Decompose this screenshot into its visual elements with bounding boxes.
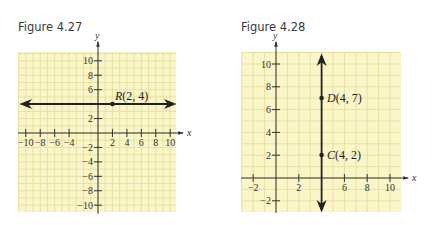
point-r-label: R(2, 4) <box>114 89 148 103</box>
x-tick-label: −8 <box>35 137 46 148</box>
x-axis-label: x <box>186 127 192 138</box>
y-tick-label: −6 <box>82 171 93 182</box>
grid-background <box>18 52 176 212</box>
x-axis-label: x <box>411 172 417 183</box>
x-tick-label: −2 <box>248 182 259 193</box>
y-tick-label: 6 <box>266 104 271 115</box>
point-d-label: D(4, 7) <box>326 91 362 105</box>
y-tick-label: 4 <box>266 127 271 138</box>
y-tick-label: 8 <box>266 81 271 92</box>
y-tick-label: −2 <box>260 195 271 206</box>
x-tick-label: 2 <box>296 182 301 193</box>
point-c <box>319 153 324 158</box>
y-axis-label: y <box>272 30 278 41</box>
point-d <box>319 96 324 101</box>
x-tick-label: 8 <box>153 137 158 148</box>
y-tick-label: −2 <box>82 142 93 153</box>
figure-4-28: x y −226810108642−2 D(4, 7) C(4, 2) <box>241 30 417 213</box>
y-tick-label: −10 <box>77 200 93 211</box>
y-tick-label: −4 <box>82 156 93 167</box>
x-tick-label: 8 <box>365 182 370 193</box>
x-tick-label: −10 <box>18 137 34 148</box>
y-tick-label: 8 <box>88 70 93 81</box>
x-tick-label: 4 <box>124 137 129 148</box>
x-tick-label: −4 <box>64 137 75 148</box>
x-tick-label: 10 <box>165 137 175 148</box>
x-tick-label: −6 <box>49 137 60 148</box>
x-tick-label: 2 <box>110 137 115 148</box>
figure-4-27: x y −10−8−6−424681010862−2−4−6−8−10 R(2,… <box>18 30 192 214</box>
y-tick-label: 10 <box>261 59 271 70</box>
y-tick-label: 6 <box>88 84 93 95</box>
y-tick-label: 2 <box>88 113 93 124</box>
y-axis-label: y <box>94 30 100 41</box>
y-tick-label: 2 <box>266 150 271 161</box>
y-tick-label: −8 <box>82 185 93 196</box>
point-c-label: C(4, 2) <box>327 148 361 162</box>
x-tick-label: 10 <box>385 182 395 193</box>
y-tick-label: 10 <box>83 55 93 66</box>
figures-canvas: x y −10−8−6−424681010862−2−4−6−8−10 R(2,… <box>0 0 438 225</box>
x-tick-label: 6 <box>139 137 144 148</box>
x-tick-label: 6 <box>342 182 347 193</box>
